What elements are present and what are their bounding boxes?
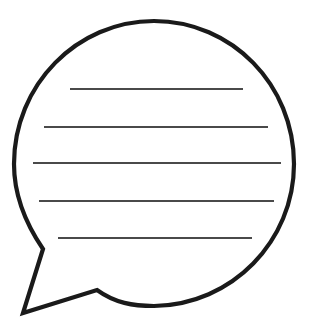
speech-bubble-illustration [0, 0, 314, 334]
speech-bubble-shape [14, 21, 294, 313]
illustration-canvas [0, 0, 314, 334]
